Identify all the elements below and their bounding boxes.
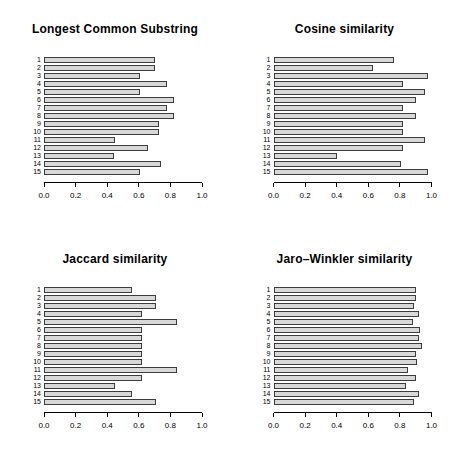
- y-axis-label: 14: [0, 160, 41, 168]
- bar-row: [44, 302, 202, 310]
- y-axis-label: 13: [230, 382, 271, 390]
- x-axis-tick: [170, 413, 171, 417]
- bar-row: [44, 128, 202, 136]
- x-axis-tick-label: 0.0: [268, 421, 279, 430]
- bar-row: [274, 302, 432, 310]
- x-axis-tick: [44, 413, 45, 417]
- x-axis-tick-label: 0.0: [268, 191, 279, 200]
- bar-category-14: [44, 391, 132, 397]
- y-axis-label: 11: [0, 366, 41, 374]
- y-axis-label: 7: [0, 104, 41, 112]
- plot-area: [44, 56, 202, 176]
- x-axis-tick: [431, 183, 432, 187]
- bar-row: [44, 104, 202, 112]
- y-axis-label: 2: [230, 294, 271, 302]
- bar-row: [44, 334, 202, 342]
- bar-row: [44, 398, 202, 406]
- bar-row: [44, 136, 202, 144]
- bar-row: [274, 398, 432, 406]
- bar-row: [274, 56, 432, 64]
- y-axis-label: 5: [0, 318, 41, 326]
- bar-category-11: [274, 367, 408, 373]
- x-axis-tick: [305, 183, 306, 187]
- bar-row: [274, 366, 432, 374]
- bar-category-6: [44, 97, 174, 103]
- y-axis-label: 10: [230, 128, 271, 136]
- bar-category-7: [44, 105, 167, 111]
- bar-row: [274, 80, 432, 88]
- bar-row: [44, 160, 202, 168]
- y-axis-label: 8: [0, 112, 41, 120]
- y-axis-label: 8: [230, 112, 271, 120]
- y-axis-label: 6: [230, 96, 271, 104]
- bar-row: [44, 342, 202, 350]
- y-axis-label: 5: [230, 88, 271, 96]
- x-axis: 0.00.20.40.60.81.0: [274, 412, 432, 435]
- bar-category-1: [44, 287, 132, 293]
- bar-row: [274, 342, 432, 350]
- bar-category-13: [44, 153, 114, 159]
- bar-row: [44, 56, 202, 64]
- bar-row: [44, 168, 202, 176]
- bar-category-13: [274, 383, 407, 389]
- plot-area: [274, 286, 432, 406]
- bar-row: [44, 112, 202, 120]
- x-axis-tick: [107, 413, 108, 417]
- bar-category-2: [274, 65, 374, 71]
- bar-category-11: [44, 137, 115, 143]
- bar-category-11: [274, 137, 426, 143]
- bar-category-7: [274, 105, 404, 111]
- x-axis: 0.00.20.40.60.81.0: [44, 412, 202, 435]
- x-axis-tick-label: 0.0: [38, 421, 49, 430]
- y-axis-label: 1: [0, 56, 41, 64]
- x-axis-tick: [273, 413, 274, 417]
- bar-row: [274, 334, 432, 342]
- y-axis-label: 6: [0, 96, 41, 104]
- bar-row: [44, 350, 202, 358]
- y-axis-label: 3: [230, 302, 271, 310]
- bar-row: [44, 374, 202, 382]
- bar-category-10: [274, 129, 404, 135]
- bar-row: [44, 80, 202, 88]
- x-axis-tick-label: 0.6: [133, 191, 144, 200]
- x-axis-tick: [368, 183, 369, 187]
- y-axis-label: 7: [0, 334, 41, 342]
- bar-row: [274, 72, 432, 80]
- bar-row: [44, 286, 202, 294]
- chart-title: Cosine similarity: [240, 22, 450, 36]
- y-axis-label: 12: [0, 144, 41, 152]
- bar-category-6: [274, 327, 421, 333]
- bar-category-7: [44, 335, 142, 341]
- y-axis-label: 4: [0, 80, 41, 88]
- y-axis-label: 15: [0, 398, 41, 406]
- bar-category-13: [44, 383, 115, 389]
- bar-row: [44, 366, 202, 374]
- bar-category-4: [274, 81, 404, 87]
- bar-category-7: [274, 335, 419, 341]
- y-axis-label: 3: [230, 72, 271, 80]
- bar-row: [44, 390, 202, 398]
- x-axis-tick-label: 0.4: [331, 421, 342, 430]
- x-axis-tick-label: 0.6: [133, 421, 144, 430]
- bar-category-15: [274, 399, 415, 405]
- bar-category-8: [274, 113, 416, 119]
- bar-category-2: [44, 295, 156, 301]
- bar-row: [44, 294, 202, 302]
- bar-category-8: [274, 343, 423, 349]
- x-axis-tick-label: 0.8: [165, 421, 176, 430]
- y-axis-label: 1: [230, 286, 271, 294]
- bar-category-3: [274, 73, 429, 79]
- bar-row: [44, 310, 202, 318]
- x-axis-tick-label: 0.4: [102, 191, 113, 200]
- lcs-chart-panel: Longest Common Substring 123456789101112…: [0, 0, 230, 230]
- y-axis-label: 5: [0, 88, 41, 96]
- bar-row: [274, 350, 432, 358]
- y-axis-label: 5: [230, 318, 271, 326]
- bar-row: [274, 358, 432, 366]
- x-axis-tick: [107, 183, 108, 187]
- bar-category-4: [44, 311, 142, 317]
- y-axis-label: 9: [230, 350, 271, 358]
- y-axis-labels: 123456789101112131415: [230, 56, 271, 176]
- y-axis-label: 8: [230, 342, 271, 350]
- bar-row: [274, 374, 432, 382]
